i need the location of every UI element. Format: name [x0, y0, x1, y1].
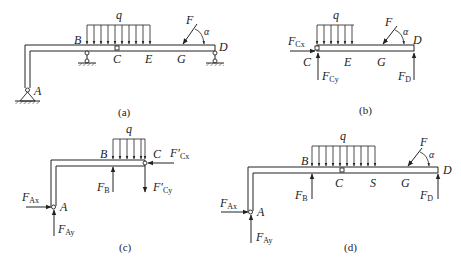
label-q: q — [340, 129, 346, 143]
label-fb: FB — [294, 188, 308, 203]
label-fb: FB — [96, 180, 110, 195]
hinge-a — [249, 210, 253, 214]
label-f: F — [185, 13, 194, 27]
label-q: q — [126, 122, 132, 136]
label-d: D — [442, 163, 452, 177]
figure-c: q B C A F′Cx F′Cy FB FAx FAy (c) — [21, 122, 189, 254]
label-a: A — [33, 84, 42, 98]
hinge-c — [115, 46, 119, 50]
label-alpha: α — [204, 26, 210, 37]
label-fcy-prime: F′Cy — [152, 180, 172, 195]
label-b: B — [100, 147, 108, 161]
label-g: G — [377, 55, 386, 69]
label-g: G — [401, 176, 410, 190]
label-b: B — [301, 154, 309, 168]
label-fax: FAx — [219, 196, 237, 211]
caption-d: (d) — [344, 241, 357, 254]
force-f-arrow — [408, 148, 422, 166]
label-alpha: α — [429, 149, 435, 160]
label-q: q — [333, 8, 339, 22]
roller-support-b — [78, 51, 96, 66]
hinge-c — [143, 161, 147, 165]
force-f-arrow — [183, 24, 197, 44]
angle-alpha-arc — [195, 29, 204, 44]
label-fcy: FCy — [321, 69, 339, 84]
label-c: C — [153, 147, 162, 161]
label-fcx-prime: F′Cx — [169, 146, 189, 161]
statics-diagram: q F α B C E G D A (a) q F α D C E — [0, 0, 461, 263]
hinge-c — [340, 168, 344, 172]
distributed-load-q — [113, 139, 145, 159]
label-g: G — [177, 52, 186, 66]
figure-a: q F α B C E G D A (a) — [15, 8, 228, 119]
label-fd: FD — [419, 188, 433, 203]
beam-cd — [317, 45, 414, 51]
label-c: C — [303, 55, 312, 69]
hinge-c — [315, 46, 319, 50]
label-alpha: α — [403, 26, 409, 37]
label-q: q — [116, 8, 122, 22]
hinge-a — [52, 205, 56, 209]
figure-d: q F α B C S G D A FB FD FAx FAy (d) — [219, 129, 452, 254]
label-c: C — [113, 52, 122, 66]
label-fay: FAy — [255, 230, 272, 245]
caption-b: (b) — [359, 104, 372, 117]
label-fcx: FCx — [287, 34, 305, 49]
label-e: E — [144, 52, 153, 66]
label-d: D — [412, 33, 422, 47]
label-s: S — [370, 176, 376, 190]
label-c: C — [335, 176, 344, 190]
angle-alpha-arc — [420, 152, 429, 166]
label-a: A — [256, 205, 265, 219]
figure-b: q F α D C E G FCx FCy FD (b) — [287, 8, 422, 117]
label-e: E — [343, 55, 352, 69]
distributed-load-q — [312, 146, 375, 166]
label-a: A — [59, 200, 68, 214]
label-d: D — [218, 40, 228, 54]
label-f: F — [384, 15, 393, 29]
label-fd: FD — [397, 69, 411, 84]
label-b: B — [74, 33, 82, 47]
distributed-load-q — [317, 25, 354, 44]
label-fay: FAy — [57, 222, 74, 237]
caption-a: (a) — [118, 106, 131, 119]
label-f: F — [419, 135, 428, 149]
label-fax: FAx — [21, 190, 39, 205]
caption-c: (c) — [119, 241, 132, 254]
distributed-load-q — [87, 25, 150, 44]
